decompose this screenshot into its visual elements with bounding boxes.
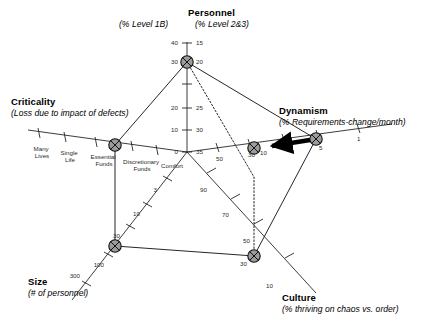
axis-subtitle-personnel-right: (% Level 2&3) (195, 19, 249, 29)
tick-size-30: 30 (113, 232, 120, 239)
tick-culture-90: 90 (200, 186, 207, 193)
tick-personnel-left-30: 30 (171, 58, 178, 65)
tick-personnel-right-25: 25 (196, 104, 203, 111)
radar-chart-figure: 40 30 20 10 0 15 20 25 30 35 50 30 10 5 … (0, 0, 423, 323)
tick-personnel-left-10: 10 (171, 126, 178, 133)
tick-size-100: 100 (94, 261, 105, 268)
tick-dynamism-50: 50 (216, 155, 223, 162)
tick-criticality-essential-funds: Essential Funds (91, 153, 118, 167)
tick-personnel-right-20: 20 (196, 58, 203, 65)
tick-size-300: 300 (70, 272, 81, 279)
criticality-tick-labels: Many Lives Single Life Essential Funds D… (34, 145, 184, 172)
tick-culture-70: 70 (222, 211, 229, 218)
tick-criticality-many-lives: Many Lives (34, 145, 51, 159)
annotation-arrow-dynamism (272, 140, 310, 146)
tick-criticality-comfort: Comfort (161, 162, 183, 169)
axis-title-personnel: Personnel (0, 7, 423, 18)
axis-title-size: Size (28, 276, 47, 287)
tick-culture-10: 10 (266, 282, 273, 289)
vertex-marker-personnel (181, 56, 193, 68)
tick-dynamism-5: 5 (319, 144, 323, 151)
vertex-marker-size (109, 240, 121, 252)
tick-criticality-single-life: Single Life (61, 149, 80, 163)
tick-personnel-left-40: 40 (171, 39, 178, 46)
tick-dynamism-30: 30 (248, 151, 255, 158)
axis-line-culture (187, 152, 316, 293)
tick-dynamism-10: 10 (260, 149, 267, 156)
tick-criticality-discretionary-funds: Discretionary Funds (123, 158, 161, 172)
tick-size-10: 10 (133, 210, 140, 217)
tick-personnel-left-20: 20 (171, 104, 178, 111)
tick-size-3: 3 (154, 186, 158, 193)
tick-personnel-right-30: 30 (196, 126, 203, 133)
axis-title-culture: Culture (282, 292, 316, 303)
tick-dynamism-1: 1 (357, 135, 361, 142)
tick-personnel-right-15: 15 (196, 39, 203, 46)
axis-subtitle-criticality: (Loss due to impact of defects) (11, 108, 129, 118)
tick-culture-50: 50 (243, 237, 250, 244)
tick-personnel-right-35: 35 (196, 148, 203, 155)
axis-subtitle-culture: (% thriving on chaos vs. order) (282, 304, 399, 314)
axis-title-dynamism: Dynamism (279, 105, 328, 116)
vertex-marker-culture (248, 250, 260, 262)
tick-culture-30: 30 (240, 260, 247, 267)
axis-subtitle-personnel-left: (% Level 1B) (119, 19, 168, 29)
axis-subtitle-dynamism: (% Requirements-change/month) (279, 117, 406, 127)
tick-personnel-left-0: 0 (175, 148, 179, 155)
radar-chart-canvas: 40 30 20 10 0 15 20 25 30 35 50 30 10 5 … (0, 0, 423, 323)
axis-subtitle-size: (# of personnel) (28, 288, 88, 298)
axis-title-criticality: Criticality (11, 96, 55, 107)
axis-line-criticality (28, 130, 187, 152)
vertex-marker-criticality (109, 139, 121, 151)
